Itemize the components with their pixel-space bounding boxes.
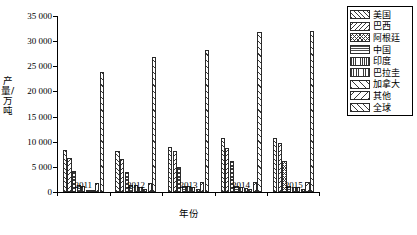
y-axis-tick (53, 91, 57, 92)
legend-swatch-icon-diagonal-backward-wide (350, 91, 370, 100)
y-axis-tick-label: 0 (48, 188, 53, 197)
legend-label: 中国 (373, 45, 391, 55)
legend-swatch-icon-horizontal-lines (350, 45, 370, 54)
y-axis-tick-label: 20 000 (27, 87, 52, 96)
legend-label: 印度 (373, 56, 391, 66)
y-axis-line (57, 16, 58, 193)
legend-swatch-icon-vertical-lines-dense (350, 57, 370, 66)
x-axis-tick (110, 192, 111, 196)
y-axis-tick (53, 41, 57, 42)
x-axis-tick-label-2012: 2012 (106, 180, 166, 190)
x-axis-tick (57, 192, 58, 196)
x-axis-tick (267, 192, 268, 196)
y-axis-tick (53, 117, 57, 118)
legend-swatch-icon-diagonal-backward (350, 22, 370, 31)
bar-group-2013 (168, 16, 209, 192)
plot-area (57, 16, 320, 193)
bar-全球-2013 (205, 50, 209, 192)
legend-label: 全球 (373, 103, 391, 113)
legend-item-巴拉圭[interactable]: 巴拉圭 (350, 67, 410, 79)
y-axis-tick-label: 5 000 (32, 162, 52, 171)
legend-item-美国[interactable]: 美国 (350, 9, 410, 21)
y-axis-tick-label: 30 000 (27, 37, 52, 46)
y-axis-tick-label: 35 000 (27, 12, 52, 21)
legend-swatch-icon-diagonal-forward-wide (350, 80, 370, 89)
y-axis-tick (53, 66, 57, 67)
legend-item-中国[interactable]: 中国 (350, 44, 410, 56)
bar-group-2011 (63, 16, 104, 192)
legend-swatch-icon-diagonal-global (350, 103, 370, 112)
x-axis-title: 年份 (57, 206, 320, 220)
bar-加拿大-2011 (90, 190, 94, 192)
y-axis-tick-label: 25 000 (27, 62, 52, 71)
legend-label: 美国 (373, 10, 391, 20)
chart-legend: 美国巴西阿根廷中国印度巴拉圭加拿大其他全球 (347, 6, 413, 116)
legend-swatch-icon-cross-hatch (350, 33, 370, 42)
y-axis-title: 产量/万吨 (1, 76, 14, 116)
bar-chart: 产量/万吨 05 00010 00015 00020 00025 00030 0… (0, 0, 417, 235)
x-axis-tick-label-2011: 2011 (53, 180, 113, 190)
legend-label: 巴拉圭 (373, 68, 400, 78)
legend-item-阿根廷[interactable]: 阿根廷 (350, 32, 410, 44)
x-axis-tick-label-2014: 2014 (211, 180, 271, 190)
legend-item-印度[interactable]: 印度 (350, 55, 410, 67)
legend-swatch-icon-vertical-lines (350, 68, 370, 77)
x-axis-tick-label-2013: 2013 (159, 180, 219, 190)
x-axis-tick-label-2015: 2015 (264, 180, 324, 190)
legend-item-巴西[interactable]: 巴西 (350, 21, 410, 33)
legend-label: 加拿大 (373, 79, 400, 89)
legend-label: 其他 (373, 91, 391, 101)
x-axis-line (57, 192, 320, 193)
y-axis-tick (53, 142, 57, 143)
legend-item-全球[interactable]: 全球 (350, 102, 410, 114)
bar-巴拉圭-2011 (86, 190, 90, 192)
legend-item-其他[interactable]: 其他 (350, 90, 410, 102)
x-axis-tick (319, 192, 320, 196)
legend-swatch-icon-diagonal-forward (350, 10, 370, 19)
bar-全球-2015 (310, 31, 314, 192)
x-axis-tick (215, 192, 216, 196)
y-axis-tick (53, 16, 57, 17)
legend-label: 阿根廷 (373, 33, 400, 43)
bar-全球-2012 (152, 57, 156, 192)
y-axis-tick (53, 167, 57, 168)
bar-group-2012 (115, 16, 156, 192)
y-axis-tick-label: 10 000 (27, 137, 52, 146)
bar-group-2014 (221, 16, 262, 192)
x-axis-tick (162, 192, 163, 196)
bar-全球-2011 (100, 72, 104, 192)
legend-label: 巴西 (373, 21, 391, 31)
bar-全球-2014 (257, 32, 261, 192)
y-axis-tick-label: 15 000 (27, 112, 52, 121)
legend-item-加拿大[interactable]: 加拿大 (350, 79, 410, 91)
bar-group-2015 (273, 16, 314, 192)
